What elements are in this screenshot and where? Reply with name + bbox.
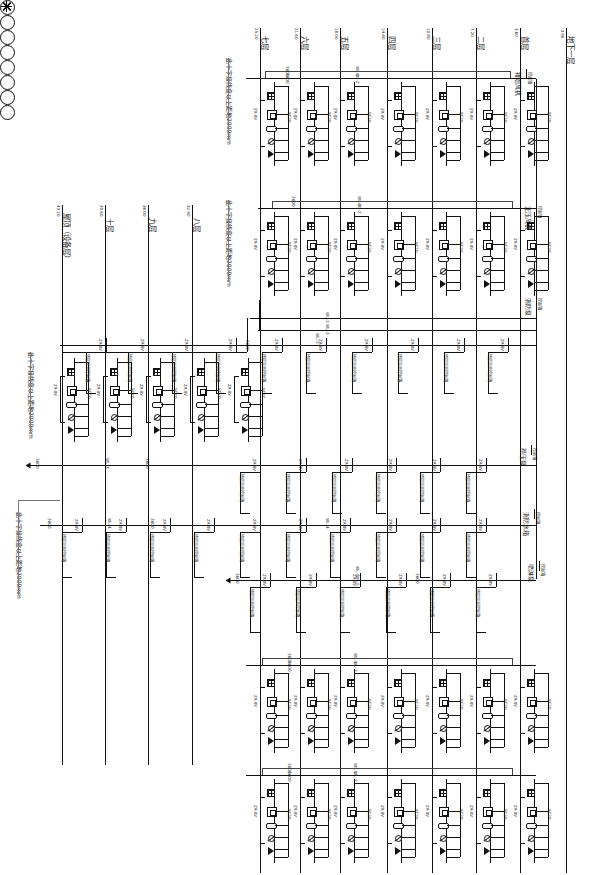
- whisker-4: [355, 282, 368, 283]
- riser-bot-branch: [446, 290, 460, 291]
- riser-unit: ZR-BVSC20: [515, 779, 555, 863]
- alarm-bell-icon: [308, 737, 314, 745]
- thermal-detector-icon: [348, 835, 355, 842]
- whisker-3: [491, 140, 504, 141]
- riser-right-rail: [548, 673, 549, 747]
- note-leader-1: [228, 58, 229, 138]
- smoke-detector-icon: [267, 92, 275, 100]
- box-riser: [82, 518, 83, 532]
- riser-bot-branch: [274, 857, 288, 858]
- riser-right-rail: [415, 86, 416, 160]
- whisker-4: [402, 849, 415, 850]
- whisker-2: [491, 715, 504, 716]
- riser-unit: ZR-BVSC20: [427, 82, 467, 166]
- floor-elev-9f: 36.00: [142, 205, 146, 216]
- box-riser: [406, 573, 407, 587]
- whisker-2: [315, 715, 328, 716]
- riser-top-branch: [274, 783, 288, 784]
- box-label: 楼层显示控制箱: [193, 534, 197, 562]
- smoke-detector-icon: [347, 92, 355, 100]
- whisker-4: [402, 282, 415, 283]
- whisker-3: [315, 837, 328, 838]
- whisker-2: [161, 404, 174, 405]
- box-cable-tag: ZR-BV: [308, 574, 312, 586]
- riser-unit: ZR-BVSC20: [471, 212, 511, 296]
- whisker-3: [355, 727, 368, 728]
- box-riser: [106, 338, 107, 352]
- whisker-3: [491, 837, 504, 838]
- riser-tag-left: ZR-BV: [253, 805, 257, 817]
- riser-left-bot: [300, 733, 305, 734]
- isolator-icon: [393, 823, 404, 829]
- riser-tag-right: SC20: [547, 699, 551, 709]
- riser-left-bot: [476, 733, 481, 734]
- riser-tag-right: SC20: [414, 809, 418, 819]
- io-module-icon: [347, 240, 357, 250]
- box-cable-tag: ZR-BV: [478, 459, 482, 471]
- equip-label-4: 稳压泵: [520, 448, 526, 466]
- riser-left-top: [234, 376, 239, 377]
- thermal-detector-icon: [528, 725, 535, 732]
- riser-left-bot: [260, 733, 265, 734]
- note-1: 此十字接线盒以上距地2000mm: [226, 58, 232, 145]
- dim-label-row5b: 3600: [150, 518, 155, 529]
- box-cable-tag: ZR-BV: [456, 339, 460, 351]
- whisker-2: [355, 128, 368, 129]
- riser-tag-left: ZR-BV: [53, 384, 57, 396]
- riser-left-rail: [387, 797, 388, 843]
- riser-tag-left: ZR-BV: [293, 695, 297, 707]
- io-module-icon: [347, 807, 357, 817]
- smoke-detector-icon: [267, 679, 275, 687]
- isolator-icon: [346, 126, 357, 132]
- riser-left-top: [520, 687, 525, 688]
- riser-right-rail: [504, 216, 505, 290]
- riser-left-top: [340, 687, 345, 688]
- riser-bot-branch: [314, 160, 328, 161]
- whisker-2: [355, 715, 368, 716]
- whisker-3: [447, 270, 460, 271]
- io-module-icon: [394, 240, 404, 250]
- riser-unit: ZR-BVSC20: [471, 669, 511, 753]
- equip-sub-6: 控制箱: [540, 564, 544, 576]
- smoke-detector-icon: [394, 679, 402, 687]
- io-module-icon: [153, 386, 163, 396]
- riser-right-rail: [328, 86, 329, 160]
- whisker-3: [535, 727, 548, 728]
- riser-tag-right: SC20: [327, 112, 331, 122]
- whisker-4: [447, 739, 460, 740]
- io-module-icon: [347, 697, 357, 707]
- box-riser: [148, 338, 149, 352]
- whisker-4: [491, 849, 504, 850]
- smoke-detector-icon: [307, 222, 315, 230]
- io-module-icon: [267, 240, 277, 250]
- crossed-circle-icon-6b: [0, 90, 15, 105]
- box-cable-tag: ZR-BV: [228, 339, 232, 351]
- riser-tag-right: SC20: [414, 242, 418, 252]
- isolator-icon: [482, 823, 493, 829]
- box-lead-top: [315, 352, 326, 353]
- riser-left-bot: [387, 843, 392, 844]
- riser-tag-right: SC20: [367, 809, 371, 819]
- riser-top-branch: [490, 783, 504, 784]
- riser-bot-branch: [354, 160, 368, 161]
- riser-left-bot: [340, 733, 345, 734]
- box-cable-tag: ZR-BV: [118, 519, 122, 531]
- crossed-circle-icon-2: [0, 15, 15, 30]
- whisker-2: [355, 825, 368, 826]
- riser-tag-left: ZR-BV: [513, 805, 517, 817]
- riser-tag-left: ZR-BV: [293, 108, 297, 120]
- thermal-detector-icon: [528, 835, 535, 842]
- riser-unit: ZR-BVSC20: [295, 669, 335, 753]
- box-cable-tag: ZR-BV: [478, 519, 482, 531]
- io-module-icon: [347, 110, 357, 120]
- riser-bot-branch: [401, 160, 415, 161]
- whisker-2: [275, 715, 288, 716]
- riser-right-rail: [460, 216, 461, 290]
- riser-left-top: [300, 687, 305, 688]
- riser-bot-branch: [314, 857, 328, 858]
- riser-right-rail: [368, 86, 369, 160]
- riser-left-bot: [476, 276, 481, 277]
- left-dim-rule: [18, 500, 19, 595]
- riser-bot-branch: [354, 857, 368, 858]
- box-lead-top: [271, 352, 282, 353]
